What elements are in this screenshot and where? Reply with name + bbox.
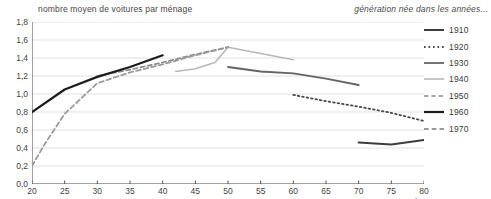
legend-label: 1940	[449, 74, 469, 84]
series-line-1920	[293, 95, 424, 121]
x-tick-label: 45	[184, 186, 206, 196]
x-tick-label: 55	[250, 186, 272, 196]
legend-swatch-1970	[424, 124, 444, 134]
x-tick-label: 40	[152, 186, 174, 196]
legend: 1910192019301940195019601970	[424, 22, 490, 137]
legend-swatch-1940	[424, 74, 444, 84]
x-tick-label: 25	[54, 186, 76, 196]
legend-label: 1920	[449, 42, 469, 52]
legend-swatch-1920	[424, 42, 444, 52]
legend-swatch-1950	[424, 91, 444, 101]
legend-label: 1930	[449, 58, 469, 68]
y-tick-label: 1,6	[2, 35, 28, 45]
y-tick-label: 1,2	[2, 71, 28, 81]
legend-item-1940[interactable]: 1940	[424, 71, 490, 87]
legend-swatch-1960	[424, 107, 444, 117]
legend-label: 1950	[449, 91, 469, 101]
series-line-1910	[359, 140, 424, 145]
x-tick-label: 60	[282, 186, 304, 196]
legend-label: 1910	[449, 25, 469, 35]
x-tick-label: 75	[380, 186, 402, 196]
y-tick-label: 1,0	[2, 89, 28, 99]
plot-svg	[32, 22, 424, 184]
legend-item-1920[interactable]: 1920	[424, 38, 490, 54]
legend-item-1960[interactable]: 1960	[424, 104, 490, 120]
y-tick-label: 0,2	[2, 161, 28, 171]
chart-container: nombre moyen de voitures par ménage géné…	[0, 0, 491, 199]
x-tick-label: 20	[21, 186, 43, 196]
legend-label: 1960	[449, 107, 469, 117]
legend-swatch-1930	[424, 58, 444, 68]
y-tick-label: 0,4	[2, 143, 28, 153]
y-axis-title: nombre moyen de voitures par ménage	[38, 4, 192, 14]
legend-item-1930[interactable]: 1930	[424, 55, 490, 71]
legend-item-1970[interactable]: 1970	[424, 120, 490, 136]
plot-area	[32, 22, 424, 184]
y-tick-label: 0,8	[2, 107, 28, 117]
x-tick-label: 35	[119, 186, 141, 196]
y-tick-label: 1,4	[2, 53, 28, 63]
x-tick-label: 50	[217, 186, 239, 196]
legend-label: 1970	[449, 124, 469, 134]
legend-title: génération née dans les années...	[354, 4, 488, 14]
y-tick-label: 0,6	[2, 125, 28, 135]
legend-item-1910[interactable]: 1910	[424, 22, 490, 38]
y-tick-label: 1,8	[2, 17, 28, 27]
x-tick-label: 80	[413, 186, 435, 196]
legend-item-1950[interactable]: 1950	[424, 88, 490, 104]
x-tick-label: 65	[315, 186, 337, 196]
x-tick-label: 70	[348, 186, 370, 196]
legend-swatch-1910	[424, 25, 444, 35]
x-axis-title: âge	[414, 196, 427, 199]
x-tick-label: 30	[86, 186, 108, 196]
